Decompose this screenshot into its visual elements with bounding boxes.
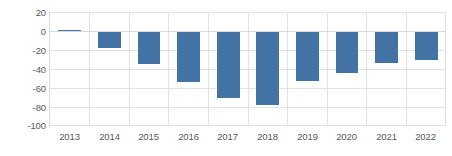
bar-2014[interactable] (98, 31, 121, 48)
x-tick-label-2014: 2014 (90, 131, 129, 142)
gridline-x-2 (129, 12, 130, 126)
bar-2021[interactable] (375, 31, 398, 63)
x-tick-label-2016: 2016 (169, 131, 208, 142)
y-tick-label--20: -20 (2, 46, 46, 56)
y-tick-label--80: -80 (2, 103, 46, 113)
x-tick-label-2015: 2015 (129, 131, 168, 142)
gridline-x-5 (248, 12, 249, 126)
x-tick-label-2020: 2020 (327, 131, 366, 142)
gridline-x-8 (366, 12, 367, 126)
y-axis-ticks: 20 0 -20 -40 -60 -80 -100 (0, 0, 46, 156)
bar-2018[interactable] (256, 31, 279, 105)
x-tick-label-2022: 2022 (406, 131, 445, 142)
x-tick-label-2018: 2018 (248, 131, 287, 142)
bar-2016[interactable] (177, 31, 200, 82)
y-tick-label--60: -60 (2, 84, 46, 94)
x-axis-ticks: 2013 2014 2015 2016 2017 2018 2019 2020 … (50, 131, 446, 151)
bar-2017[interactable] (217, 31, 240, 98)
bar-2020[interactable] (336, 31, 359, 73)
x-tick-label-2017: 2017 (208, 131, 247, 142)
y-tick-label-0: 0 (2, 27, 46, 37)
gridline-x-4 (208, 12, 209, 126)
gridline-x-6 (287, 12, 288, 126)
bar-2022[interactable] (415, 31, 438, 60)
gridline-x-3 (168, 12, 169, 126)
y-tick-label--100: -100 (2, 121, 46, 131)
plot-area (50, 12, 446, 126)
y-axis-line (49, 12, 50, 127)
x-tick-label-2019: 2019 (288, 131, 327, 142)
zero-baseline (50, 31, 446, 32)
gridline-x-7 (327, 12, 328, 126)
gridline-x-1 (89, 12, 90, 126)
y-tick-label-20: 20 (2, 8, 46, 18)
gridline-x-10 (445, 12, 446, 126)
bar-chart: 20 0 -20 -40 -60 -80 -100 2013 2014 2015… (0, 0, 452, 156)
bar-2015[interactable] (138, 31, 161, 64)
x-tick-label-2021: 2021 (367, 131, 406, 142)
bar-2019[interactable] (296, 31, 319, 81)
y-tick-label--40: -40 (2, 65, 46, 75)
gridline-x-9 (406, 12, 407, 126)
x-tick-label-2013: 2013 (50, 131, 89, 142)
